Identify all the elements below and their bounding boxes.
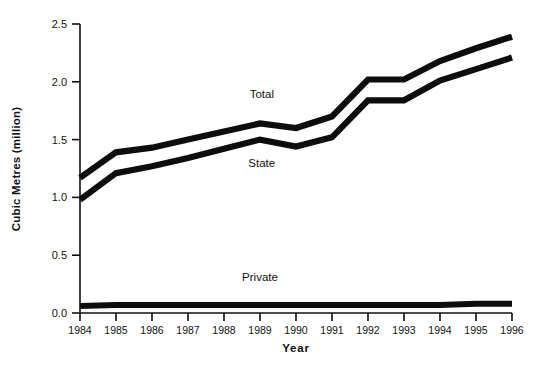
y-axis-ticks <box>72 24 80 313</box>
series-label-state: State <box>248 157 275 169</box>
x-tick-label: 1992 <box>356 324 380 336</box>
x-tick-label: 1986 <box>140 324 164 336</box>
x-tick-label: 1987 <box>176 324 200 336</box>
x-tick-label: 1993 <box>392 324 416 336</box>
series-line-private <box>80 304 512 306</box>
line-chart: 0.00.51.01.52.02.5 198419851986198719881… <box>0 0 551 365</box>
x-axis-title: Year <box>282 342 310 354</box>
x-axis-ticks <box>80 313 512 321</box>
y-tick-label: 1.5 <box>52 134 67 146</box>
x-axis-tick-labels: 1984198519861987198819891990199119921993… <box>68 324 524 336</box>
y-axis-tick-labels: 0.00.51.01.52.02.5 <box>52 18 67 319</box>
x-tick-label: 1991 <box>320 324 344 336</box>
series-line-total <box>80 37 512 178</box>
y-tick-label: 1.0 <box>52 191 67 203</box>
x-tick-label: 1988 <box>212 324 236 336</box>
series-labels: Total State Private <box>242 88 278 283</box>
x-tick-label: 1995 <box>464 324 488 336</box>
data-series-group <box>80 37 512 306</box>
series-label-private: Private <box>242 271 278 283</box>
x-tick-label: 1996 <box>500 324 524 336</box>
y-tick-label: 2.0 <box>52 76 67 88</box>
x-tick-label: 1989 <box>248 324 272 336</box>
series-label-total: Total <box>250 88 274 100</box>
y-axis: 0.00.51.01.52.02.5 <box>52 18 80 319</box>
chart-canvas: 0.00.51.01.52.02.5 198419851986198719881… <box>0 0 551 365</box>
y-tick-label: 0.0 <box>52 307 67 319</box>
y-tick-label: 2.5 <box>52 18 67 30</box>
x-tick-label: 1994 <box>428 324 452 336</box>
x-tick-label: 1990 <box>284 324 308 336</box>
y-axis-title: Cubic Metres (million) <box>10 107 22 232</box>
x-tick-label: 1984 <box>68 324 92 336</box>
x-tick-label: 1985 <box>104 324 128 336</box>
y-tick-label: 0.5 <box>52 249 67 261</box>
x-axis: 1984198519861987198819891990199119921993… <box>68 313 524 336</box>
